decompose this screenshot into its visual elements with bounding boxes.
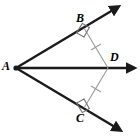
segment-cd xyxy=(84,68,108,108)
geometry-figure: A B C D xyxy=(0,0,140,139)
ray-ab xyxy=(16,10,113,68)
ray-ac xyxy=(16,68,115,127)
vertex-label-d: D xyxy=(110,51,119,63)
geometry-canvas xyxy=(0,0,140,139)
vertex-label-b: B xyxy=(76,12,84,24)
vertex-label-c: C xyxy=(76,112,84,124)
vertex-label-a: A xyxy=(2,60,10,72)
tick-mark-cd xyxy=(91,86,101,92)
segment-bd xyxy=(84,28,108,68)
tick-mark-bd xyxy=(91,44,101,50)
vertex-point-a xyxy=(13,65,18,70)
